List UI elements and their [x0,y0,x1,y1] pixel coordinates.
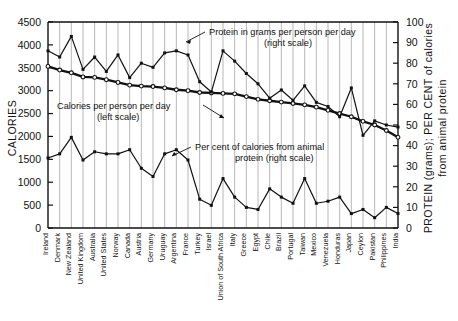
data-point [303,103,307,107]
data-point [280,196,283,199]
data-point [105,70,108,73]
data-point [58,68,62,72]
y-tick-label-right: 30 [406,160,418,172]
data-point [257,82,260,85]
y-tick-label-left: 3500 [18,62,42,74]
data-point [139,84,143,88]
y-tick-label-right: 70 [406,78,418,90]
y-tick-label-left: 500 [23,199,41,211]
data-point [280,88,283,91]
data-point [385,124,388,127]
data-point [93,75,97,79]
data-point [350,212,353,215]
animal-protein-annotation-line2: protein (right scale) [235,153,314,163]
x-axis-label: Chile [263,233,272,249]
calories-annotation-line1: Calories per person per day [57,101,171,111]
data-point [128,76,131,79]
y-tick-label-right: 50 [406,119,418,131]
data-point [314,105,318,109]
data-point [292,99,295,102]
data-point [233,60,236,63]
data-point [186,89,190,93]
x-axis-label: Egypt [251,233,260,251]
data-point [47,156,50,159]
data-point [58,56,61,59]
x-axis-label: Ireland [41,233,50,255]
data-point [58,152,61,155]
y-tick-label-right: 10 [406,201,418,213]
x-axis-label: Canada [123,233,132,258]
data-point [245,206,248,209]
x-axis-label: Pakistan [368,233,377,261]
data-point [152,66,155,69]
x-axis-label: United Kingdom [76,233,85,284]
x-axis-label: Brazil [274,233,283,251]
data-point [116,81,120,85]
data-point [257,208,260,211]
x-axis-label: Italy [228,233,237,247]
y-tick-label-left: 2000 [18,130,42,142]
data-point [327,105,330,108]
x-axis-label: Australia [88,233,97,261]
data-point [210,204,213,207]
data-point [303,177,306,180]
y-tick-label-right: 90 [406,36,418,48]
data-point [350,86,353,89]
data-point [338,115,341,118]
data-point [152,175,155,178]
data-point [69,71,73,75]
data-point [373,123,377,127]
nutrition-line-chart: 050010001500200025003000350040004500 010… [0,0,458,321]
data-point [128,83,132,87]
data-point [175,49,178,52]
x-axis-label: Turkey [193,233,202,255]
data-point [198,198,201,201]
data-point [222,177,225,180]
data-point [70,35,73,38]
data-point [338,196,341,199]
data-point [117,53,120,56]
chart-figure: 050010001500200025003000350040004500 010… [0,0,458,321]
x-axis-label: Greece [239,233,248,257]
data-point [268,187,271,190]
data-point [104,78,108,82]
data-point [373,216,376,219]
data-point [362,134,365,137]
data-point [384,129,388,133]
x-axis-label: Ceylon [356,233,365,255]
data-point [198,80,201,83]
y-tick-label-left: 1500 [18,153,42,165]
data-point [187,53,190,56]
protein-annotation-line2: (right scale) [264,38,312,48]
data-point [396,135,400,139]
data-point [244,95,248,99]
data-point [221,92,225,96]
data-point [361,119,365,123]
calories-annotation-line2: (left scale) [97,112,139,122]
y-tick-label-right: 40 [406,139,418,151]
x-axis-label: Honduras [333,233,342,265]
data-point [349,115,353,119]
y-tick-label-left: 1000 [18,176,42,188]
data-point [151,85,155,89]
data-point [82,68,85,71]
x-axis-label: Venezuela [321,233,330,267]
data-point [187,159,190,162]
data-point [326,108,330,112]
data-point [163,86,167,90]
data-point [163,51,166,54]
data-point [105,152,108,155]
x-axis-label: Denmark [53,233,62,263]
x-axis-label: Union of South Africa [216,233,225,301]
x-axis-label: Taiwan [298,233,307,255]
data-point [385,206,388,209]
data-point [70,136,73,139]
data-point [362,208,365,211]
x-axis-label: Uruguay [158,233,167,261]
data-point [81,75,85,79]
x-axis-label: Portugal [286,233,295,260]
x-axis-label: Argentina [169,233,178,264]
data-point [140,167,143,170]
data-point [174,88,178,92]
y-tick-label-left: 2500 [18,107,42,119]
